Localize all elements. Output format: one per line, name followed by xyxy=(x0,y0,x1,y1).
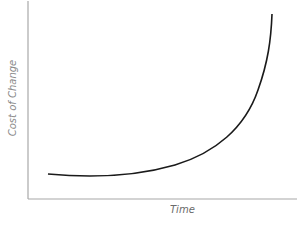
cost-curve xyxy=(48,14,272,176)
y-axis-label: Cost of Change xyxy=(7,60,18,137)
x-axis-label: Time xyxy=(170,204,195,215)
chart-canvas xyxy=(0,0,306,231)
